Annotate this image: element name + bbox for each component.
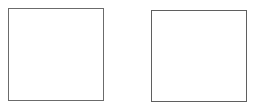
empty-frame-left xyxy=(8,8,104,101)
empty-frame-right xyxy=(151,10,247,102)
